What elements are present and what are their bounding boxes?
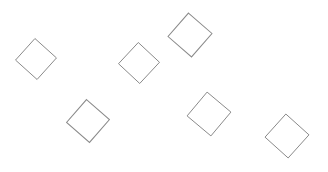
diamond-1 (14, 37, 57, 80)
diamond-shape-layer (0, 0, 328, 172)
diamond-6 (264, 113, 310, 159)
diamond-5 (185, 90, 233, 138)
diamond-3 (167, 12, 214, 59)
diamond-4 (65, 98, 111, 144)
diamond-2 (118, 42, 160, 84)
figure-canvas (0, 0, 328, 172)
